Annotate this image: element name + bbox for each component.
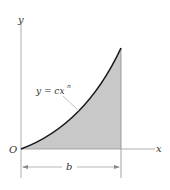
equation-exponent: n [67,82,71,89]
equation-label: y = cx [35,86,64,96]
shaded-area [21,48,121,149]
y-axis-label: y [17,14,24,25]
arrow-right-icon [114,165,120,169]
origin-label: O [9,144,17,155]
dimension-label: b [66,161,72,172]
x-axis-label: x [156,143,162,154]
diagram-canvas: y x O y = cx n b [0,0,170,190]
arrow-left-icon [22,165,28,169]
equation-leader [63,96,79,111]
